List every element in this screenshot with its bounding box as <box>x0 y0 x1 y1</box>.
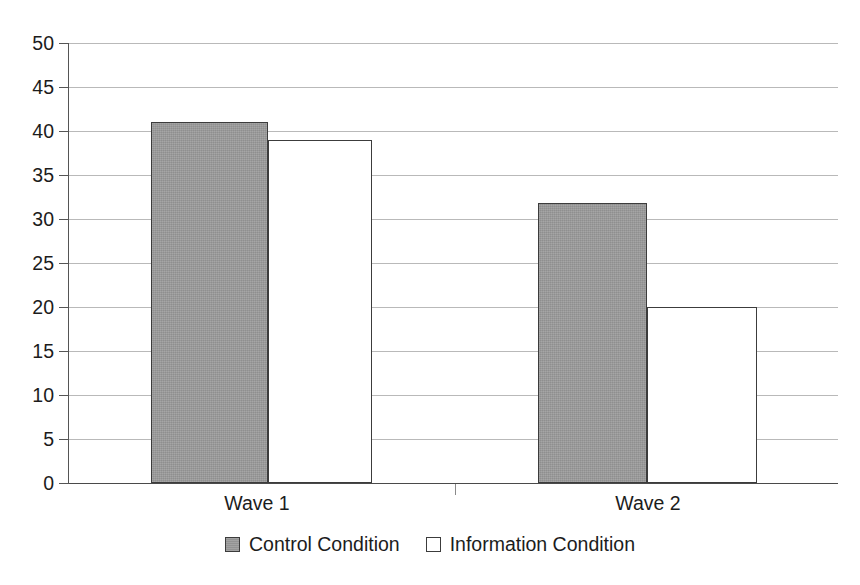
y-tick-50 <box>59 43 68 44</box>
y-tick-15 <box>59 351 68 352</box>
y-axis-label-45: 45 <box>14 77 54 97</box>
bar-chart: 50 45 40 35 30 25 20 15 10 5 0 Wave 1 Wa… <box>0 0 860 585</box>
y-axis-label-0: 0 <box>14 473 54 493</box>
legend-label-control-condition: Control Condition <box>249 534 400 554</box>
legend-item-information-condition[interactable]: Information Condition <box>426 534 635 554</box>
y-tick-0 <box>59 483 68 484</box>
y-axis-label-35: 35 <box>14 165 54 185</box>
bar-wave1-control[interactable] <box>151 122 268 483</box>
bar-wave2-control[interactable] <box>538 203 647 483</box>
gridline-50 <box>68 43 838 44</box>
y-tick-40 <box>59 131 68 132</box>
y-tick-25 <box>59 263 68 264</box>
legend-item-control-condition[interactable]: Control Condition <box>225 534 400 554</box>
chart-legend: Control Condition Information Condition <box>0 534 860 554</box>
y-axis-label-25: 25 <box>14 253 54 273</box>
bar-wave1-information[interactable] <box>268 140 372 483</box>
y-axis-label-15: 15 <box>14 341 54 361</box>
y-axis-line <box>68 43 69 484</box>
y-axis-label-30: 30 <box>14 209 54 229</box>
y-axis-label-50: 50 <box>14 33 54 53</box>
bar-wave2-information[interactable] <box>647 307 757 483</box>
y-tick-10 <box>59 395 68 396</box>
y-tick-45 <box>59 87 68 88</box>
x-axis-baseline <box>68 483 838 484</box>
outlined-white-square-icon <box>426 537 441 552</box>
y-axis-label-40: 40 <box>14 121 54 141</box>
y-axis-label-20: 20 <box>14 297 54 317</box>
gridline-45 <box>68 87 838 88</box>
y-tick-5 <box>59 439 68 440</box>
y-tick-30 <box>59 219 68 220</box>
y-tick-35 <box>59 175 68 176</box>
y-tick-20 <box>59 307 68 308</box>
x-axis-label-wave-1: Wave 1 <box>182 492 332 514</box>
legend-label-information-condition: Information Condition <box>450 534 635 554</box>
plot-area <box>68 43 838 483</box>
x-axis-category-separator-tick <box>455 484 456 495</box>
filled-gray-square-icon <box>225 537 240 552</box>
y-axis-label-5: 5 <box>14 429 54 449</box>
y-axis-label-10: 10 <box>14 385 54 405</box>
x-axis-label-wave-2: Wave 2 <box>573 492 723 514</box>
